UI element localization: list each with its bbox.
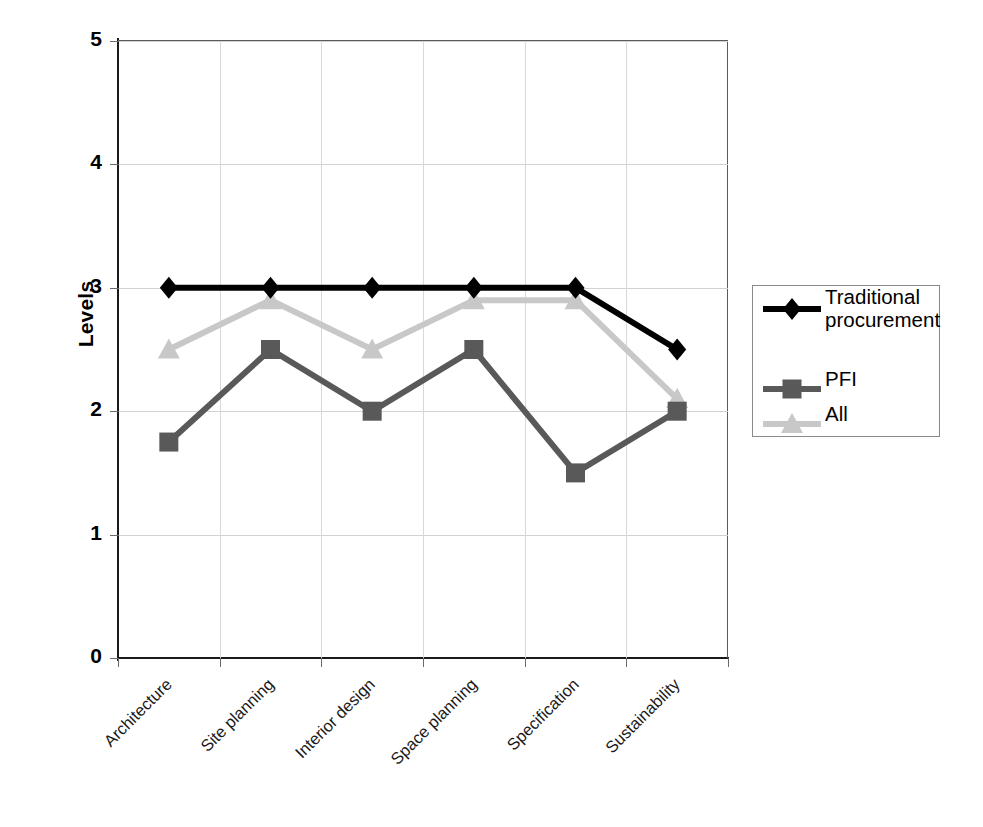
- y-tick: [110, 41, 119, 42]
- x-tick: [626, 658, 627, 667]
- y-axis-line: [117, 38, 119, 661]
- x-tick: [321, 658, 322, 667]
- gridline-vertical: [626, 41, 627, 658]
- y-tick-label: 0: [72, 644, 102, 668]
- y-tick-label: 3: [72, 274, 102, 298]
- data-point-marker: [261, 340, 280, 359]
- x-tick: [423, 658, 424, 667]
- y-tick-label: 1: [72, 521, 102, 545]
- y-tick: [110, 535, 119, 536]
- x-tick: [220, 658, 221, 667]
- y-axis-title: Levels: [74, 244, 102, 384]
- data-point-marker: [158, 339, 180, 359]
- x-tick: [525, 658, 526, 667]
- y-tick-label: 5: [72, 27, 102, 51]
- data-point-marker: [361, 339, 383, 359]
- y-tick: [110, 164, 119, 165]
- legend: Traditional procurementPFIAll: [752, 285, 940, 437]
- data-point-marker: [464, 340, 483, 359]
- y-tick: [110, 411, 119, 412]
- line-chart: Levels 012345 ArchitectureSite planningI…: [0, 0, 983, 827]
- plot-right-border: [727, 40, 728, 658]
- x-tick: [118, 658, 119, 667]
- y-tick-label: 2: [72, 397, 102, 421]
- data-point-marker: [566, 463, 585, 482]
- y-tick: [110, 288, 119, 289]
- legend-label: PFI: [825, 368, 939, 391]
- square-marker-icon: [763, 378, 821, 400]
- gridline-vertical: [423, 41, 424, 658]
- triangle-marker-icon: [763, 413, 821, 435]
- gridline-vertical: [321, 41, 322, 658]
- legend-label: Traditional procurement: [825, 286, 939, 332]
- data-point-marker: [159, 433, 178, 452]
- gridline-vertical: [525, 41, 526, 658]
- legend-label: All: [825, 403, 939, 426]
- diamond-marker-icon: [763, 298, 821, 320]
- y-tick-label: 4: [72, 150, 102, 174]
- data-point-marker: [463, 289, 485, 309]
- data-point-marker: [260, 289, 282, 309]
- data-point-marker: [565, 289, 587, 309]
- data-point-marker: [666, 388, 688, 408]
- x-tick: [728, 658, 729, 667]
- gridline-vertical: [220, 41, 221, 658]
- data-point-marker: [668, 339, 686, 361]
